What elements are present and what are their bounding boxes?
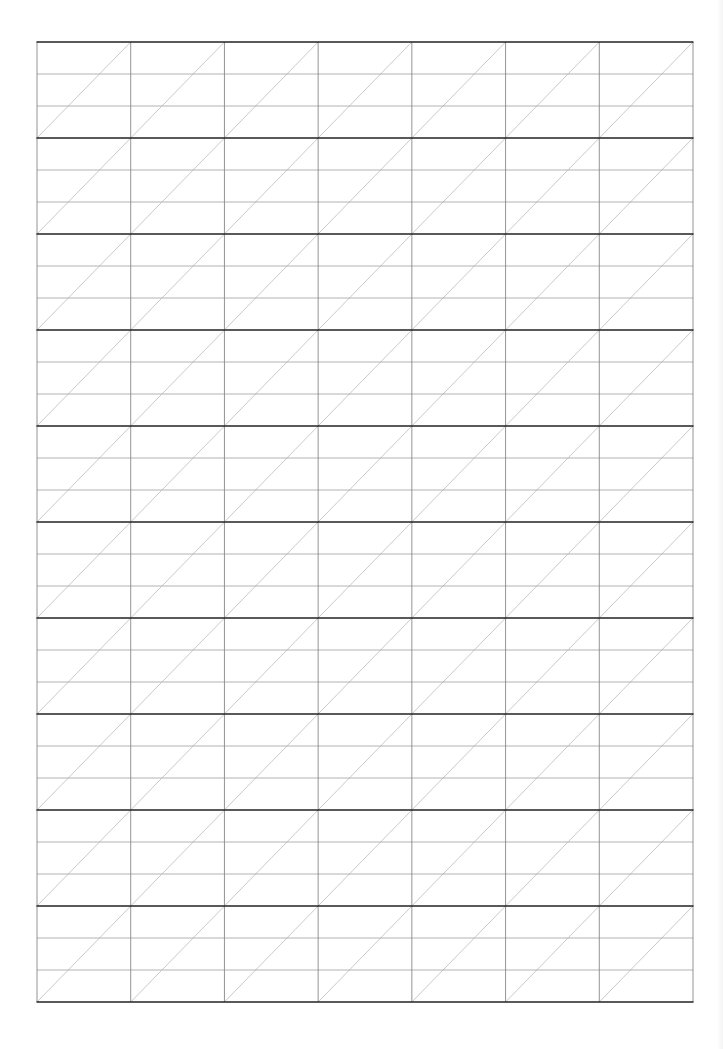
cell-diagonal xyxy=(506,330,600,426)
cell-diagonal xyxy=(37,426,131,522)
cell-diagonal xyxy=(318,618,412,714)
cell-diagonal xyxy=(506,426,600,522)
cell-diagonal xyxy=(318,138,412,234)
cell-diagonal xyxy=(599,906,693,1002)
cell-diagonal xyxy=(412,522,506,618)
cell-diagonal xyxy=(37,618,131,714)
cell-diagonal xyxy=(224,138,318,234)
cell-diagonal xyxy=(37,234,131,330)
cell-diagonal xyxy=(318,234,412,330)
cell-diagonal xyxy=(37,42,131,138)
cell-diagonal xyxy=(318,810,412,906)
cell-diagonal xyxy=(224,810,318,906)
cell-diagonal xyxy=(599,618,693,714)
cell-diagonal xyxy=(599,234,693,330)
cell-diagonal xyxy=(412,330,506,426)
cell-diagonal xyxy=(412,234,506,330)
cell-diagonal xyxy=(506,810,600,906)
cell-diagonal xyxy=(131,906,225,1002)
cell-diagonal xyxy=(131,330,225,426)
cell-diagonal xyxy=(412,618,506,714)
cell-diagonal xyxy=(131,810,225,906)
cell-diagonal xyxy=(318,426,412,522)
cell-diagonal xyxy=(318,522,412,618)
cell-diagonal xyxy=(412,426,506,522)
cell-diagonal xyxy=(224,522,318,618)
cell-diagonal xyxy=(599,810,693,906)
cell-diagonal xyxy=(506,522,600,618)
cell-diagonal xyxy=(224,42,318,138)
cell-diagonal xyxy=(131,42,225,138)
cell-diagonal xyxy=(224,714,318,810)
cell-diagonal xyxy=(412,810,506,906)
cell-diagonal xyxy=(131,234,225,330)
cell-diagonal xyxy=(37,330,131,426)
cell-diagonal xyxy=(224,618,318,714)
cell-diagonal xyxy=(506,906,600,1002)
cell-diagonal xyxy=(131,426,225,522)
cell-diagonal xyxy=(224,330,318,426)
cell-diagonal xyxy=(412,714,506,810)
cell-diagonal xyxy=(506,618,600,714)
cell-diagonal xyxy=(318,42,412,138)
cell-diagonal xyxy=(506,714,600,810)
cell-diagonal xyxy=(224,234,318,330)
cell-diagonal xyxy=(131,138,225,234)
cell-diagonal xyxy=(37,906,131,1002)
cell-diagonal xyxy=(318,714,412,810)
cell-diagonal xyxy=(37,810,131,906)
cell-diagonal xyxy=(37,714,131,810)
cell-diagonal xyxy=(412,138,506,234)
cell-diagonal xyxy=(412,42,506,138)
cell-diagonal xyxy=(599,426,693,522)
practice-grid xyxy=(0,0,723,1049)
cell-diagonal xyxy=(131,714,225,810)
cell-diagonal xyxy=(599,714,693,810)
cell-diagonal xyxy=(318,906,412,1002)
cell-diagonal xyxy=(506,42,600,138)
cell-diagonal xyxy=(506,234,600,330)
cell-diagonal xyxy=(599,42,693,138)
page-edge-shadow xyxy=(717,0,723,1049)
cell-diagonal xyxy=(412,906,506,1002)
cell-diagonal xyxy=(37,522,131,618)
cell-diagonal xyxy=(224,426,318,522)
cell-diagonal xyxy=(506,138,600,234)
cell-diagonal xyxy=(599,138,693,234)
cell-diagonal xyxy=(131,618,225,714)
cell-diagonal xyxy=(37,138,131,234)
cell-diagonal xyxy=(224,906,318,1002)
cell-diagonal xyxy=(318,330,412,426)
cell-diagonal xyxy=(599,522,693,618)
cell-diagonal xyxy=(599,330,693,426)
cell-diagonal xyxy=(131,522,225,618)
